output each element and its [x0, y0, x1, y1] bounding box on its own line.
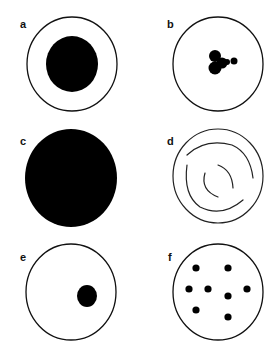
- panel-d-middle-arc: [186, 165, 243, 211]
- figure-canvas: [0, 0, 277, 351]
- panel-f-dots: [185, 264, 250, 320]
- panel-b-blob: [209, 50, 238, 75]
- panel-a: [27, 17, 117, 111]
- panel-d: [173, 129, 263, 223]
- panel-b: [173, 17, 263, 111]
- panel-d-inner-arc-2: [204, 173, 218, 197]
- panel-e-dot: [77, 285, 97, 307]
- panel-a-inner-disc: [46, 36, 98, 92]
- panel-e-outer-circle: [26, 244, 116, 340]
- panel-f: [173, 244, 263, 340]
- panel-c: [25, 129, 117, 227]
- panel-c-filled-disc: [25, 129, 117, 227]
- panel-d-inner-arc-1: [218, 165, 233, 188]
- panel-f-outer-circle: [173, 244, 263, 340]
- panel-d-outer-arc: [187, 143, 253, 178]
- panel-e: [26, 244, 116, 340]
